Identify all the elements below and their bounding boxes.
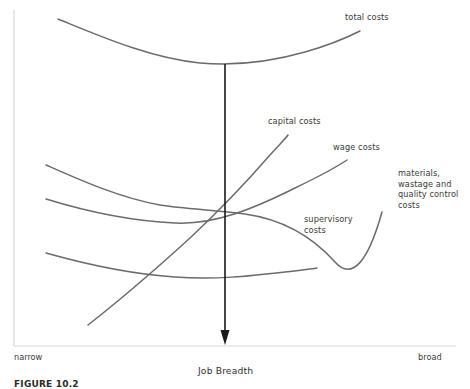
figure-container: total costs capital costs wage costs mat…	[0, 0, 470, 389]
label-materials-costs: materials, wastage and quality control c…	[398, 168, 466, 210]
label-wage-costs: wage costs	[333, 142, 380, 153]
x-axis-right-label: broad	[418, 352, 442, 362]
label-materials-costs-line-4: costs	[398, 200, 466, 211]
label-supervisory-costs-line-1: supervisory	[304, 214, 364, 225]
figure-caption: FIGURE 10.2	[14, 379, 79, 389]
x-axis-title: Job Breadth	[198, 365, 253, 376]
label-materials-costs-line-3: quality control	[398, 189, 466, 200]
label-materials-costs-line-2: wastage and	[398, 179, 466, 190]
series-capital-costs	[88, 135, 288, 325]
label-capital-costs: capital costs	[268, 116, 321, 127]
series-wage-costs	[46, 160, 347, 223]
series-total-costs	[58, 19, 360, 64]
label-supervisory-costs: supervisory costs	[304, 214, 364, 235]
label-total-costs: total costs	[345, 12, 389, 23]
label-supervisory-costs-line-2: costs	[304, 225, 364, 236]
optimum-arrow-head	[221, 330, 230, 345]
label-materials-costs-line-1: materials,	[398, 168, 466, 179]
x-axis-left-label: narrow	[14, 352, 42, 362]
series-supervisory-costs	[46, 253, 317, 278]
